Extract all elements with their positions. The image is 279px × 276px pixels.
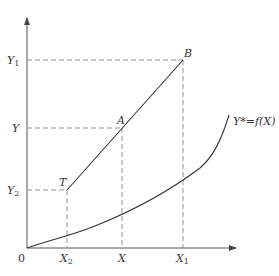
x-tick-x: X [117, 252, 127, 265]
x-tick-x2: X2 [59, 252, 73, 266]
point-label-t: T [59, 176, 68, 189]
curve-label: Y*=f(X) [233, 115, 275, 128]
y-tick-y2: Y2 [7, 184, 19, 198]
y-tick-y1: Y1 [7, 54, 19, 68]
point-label-b: B [183, 47, 192, 60]
y-tick-y: Y [12, 122, 21, 135]
line-tab [67, 60, 183, 190]
curve-f [27, 115, 229, 248]
x-tick-x1: X1 [175, 252, 189, 266]
economic-diagram: T A B Y*=f(X) Y1 Y Y2 0 X2 X X1 [0, 0, 279, 276]
origin-label: 0 [18, 252, 25, 265]
guide-lines [27, 60, 183, 248]
point-label-a: A [116, 114, 125, 127]
